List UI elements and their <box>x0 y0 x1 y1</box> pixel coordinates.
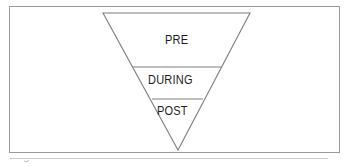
clipped-caption-text: Figure 1 <box>14 160 134 162</box>
clipped-caption: Figure 1 <box>14 160 134 167</box>
tier-label-during: DURING <box>148 74 193 86</box>
tier-label-post: POST <box>157 105 188 117</box>
tier-label-pre: PRE <box>165 34 188 46</box>
page-scan-line <box>10 158 328 159</box>
diagram-canvas: PRE DURING POST Figure 1 <box>0 0 358 167</box>
